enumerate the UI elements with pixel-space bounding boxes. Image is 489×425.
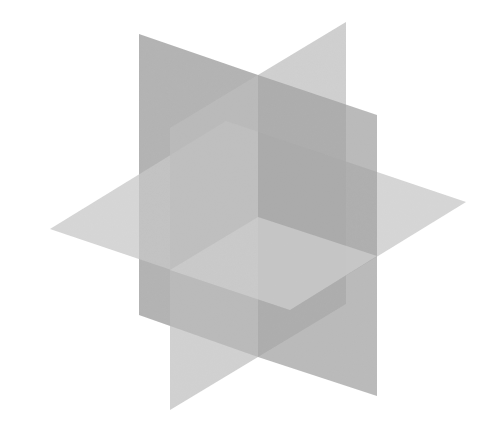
planes-svg bbox=[0, 0, 489, 425]
intersecting-planes-diagram bbox=[0, 0, 489, 425]
planes-group bbox=[50, 22, 466, 410]
